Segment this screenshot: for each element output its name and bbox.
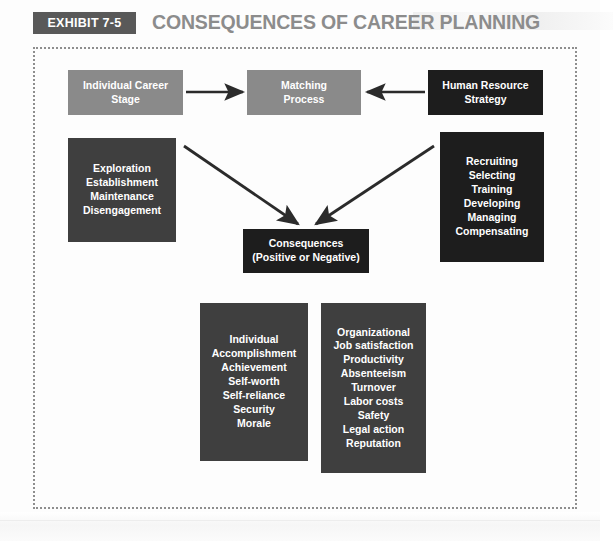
box-line: Self-worth <box>228 375 279 389</box>
page-scan-bottom-edge <box>0 512 600 541</box>
box-line: Self-reliance <box>223 389 285 403</box>
box-line: Morale <box>237 417 271 431</box>
box-line: Accomplishment <box>212 347 297 361</box>
exhibit-header: EXHIBIT 7-5 CONSEQUENCES OF CAREER PLANN… <box>33 10 578 38</box>
box-organizational-outcomes: Organizational Job satisfaction Producti… <box>321 303 426 473</box>
box-line: Selecting <box>469 169 516 183</box>
box-line: Individual Career <box>83 79 168 93</box>
box-heading: Individual <box>229 333 278 347</box>
box-line: Exploration <box>93 162 151 176</box>
box-line: Job satisfaction <box>334 339 414 353</box>
page-title: CONSEQUENCES OF CAREER PLANNING <box>152 10 540 34</box>
box-line: Developing <box>464 197 521 211</box>
box-line: Training <box>472 183 513 197</box>
box-career-stages: Exploration Establishment Maintenance Di… <box>68 138 176 242</box>
box-heading: Organizational <box>337 326 410 340</box>
box-line: Strategy <box>464 93 506 107</box>
box-line: Human Resource <box>442 79 528 93</box>
exhibit-number-badge: EXHIBIT 7-5 <box>33 12 136 34</box>
box-line: Productivity <box>343 353 404 367</box>
box-line: Establishment <box>86 176 158 190</box>
box-line: (Positive or Negative) <box>252 251 359 265</box>
box-line: Maintenance <box>90 190 154 204</box>
box-line: Stage <box>111 93 140 107</box>
box-line: Achievement <box>221 361 286 375</box>
box-hr-activities: Recruiting Selecting Training Developing… <box>440 132 544 262</box>
box-line: Absenteeism <box>341 367 406 381</box>
box-human-resource-strategy: Human Resource Strategy <box>428 70 543 115</box>
box-line: Safety <box>358 409 390 423</box>
box-line: Disengagement <box>83 204 161 218</box>
box-line: Managing <box>468 211 517 225</box>
box-line: Process <box>284 93 325 107</box>
box-individual-outcomes: Individual Accomplishment Achievement Se… <box>200 303 308 461</box>
box-line: Turnover <box>351 381 396 395</box>
box-line: Matching <box>281 79 327 93</box>
box-individual-career-stage: Individual Career Stage <box>68 70 183 115</box>
page-scan-fold-line <box>0 520 600 521</box>
box-line: Consequences <box>269 237 344 251</box>
box-matching-process: Matching Process <box>247 70 361 115</box>
box-line: Legal action <box>343 423 404 437</box>
box-line: Recruiting <box>466 155 518 169</box>
box-line: Compensating <box>456 225 529 239</box>
box-line: Reputation <box>346 437 401 451</box>
box-line: Security <box>233 403 274 417</box>
box-line: Labor costs <box>344 395 404 409</box>
box-consequences: Consequences (Positive or Negative) <box>243 229 369 273</box>
